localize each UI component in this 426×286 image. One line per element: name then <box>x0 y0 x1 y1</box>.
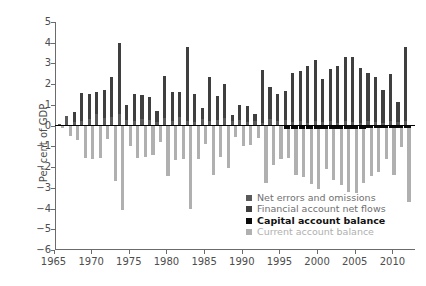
segment-current-account <box>182 126 185 159</box>
segment-current-account <box>294 126 297 176</box>
x-tick-mark <box>91 250 92 254</box>
bar-current-1980 <box>166 22 169 250</box>
y-tick-label: −4 <box>36 204 51 214</box>
y-tick-mark <box>51 63 55 64</box>
bar-current-1972 <box>106 22 109 250</box>
bar-current-1966 <box>61 22 64 250</box>
x-tick-label: 1985 <box>191 256 216 267</box>
x-tick-label: 1980 <box>154 256 179 267</box>
x-tick-label: 2000 <box>304 256 329 267</box>
bar-current-2011 <box>400 22 403 250</box>
segment-current-account <box>279 126 282 159</box>
y-tick-label: 0 <box>45 121 51 131</box>
segment-current-account <box>392 126 395 176</box>
bar-current-1982 <box>182 22 185 250</box>
y-tick-label: −5 <box>36 224 51 234</box>
segment-current-account <box>76 126 79 141</box>
chart-legend: Net errors and omissionsFinancial accoun… <box>246 192 386 238</box>
y-tick-label: −2 <box>36 162 51 172</box>
segment-current-account <box>84 126 87 158</box>
y-tick-label: 3 <box>45 58 51 68</box>
x-tick-mark <box>317 250 318 254</box>
segment-current-account <box>189 126 192 209</box>
segment-current-account <box>121 126 124 210</box>
legend-label: Financial account net flows <box>257 204 386 214</box>
segment-current-account <box>302 126 305 178</box>
segment-current-account <box>385 126 388 159</box>
segment-current-account <box>287 126 290 158</box>
legend-item: Net errors and omissions <box>246 192 386 204</box>
bar-current-1990 <box>242 22 245 250</box>
legend-swatch-icon <box>246 229 252 235</box>
y-tick-mark <box>51 22 55 23</box>
legend-label: Net errors and omissions <box>257 193 376 203</box>
bar-current-1988 <box>227 22 230 250</box>
legend-item: Current account balance <box>246 227 386 239</box>
bar-current-2010 <box>392 22 395 250</box>
segment-current-account <box>325 126 328 170</box>
segment-current-account <box>272 126 275 165</box>
segment-current-account <box>114 126 117 181</box>
y-tick-label: 4 <box>45 38 51 48</box>
segment-current-account <box>370 126 373 177</box>
x-tick-label: 1970 <box>78 256 103 267</box>
bar-current-1986 <box>212 22 215 250</box>
x-tick-mark <box>355 250 356 254</box>
x-tick-label: 2005 <box>342 256 367 267</box>
bar-current-1968 <box>76 22 79 250</box>
bar-current-2012 <box>407 22 410 250</box>
x-tick-mark <box>166 250 167 254</box>
x-tick-mark <box>54 250 55 254</box>
bar-current-1967 <box>69 22 72 250</box>
y-tick-mark <box>51 229 55 230</box>
legend-swatch-icon <box>246 206 252 212</box>
y-tick-label: 2 <box>45 79 51 89</box>
bar-current-1978 <box>151 22 154 250</box>
segment-current-account <box>355 126 358 193</box>
x-tick-mark <box>392 250 393 254</box>
segment-current-account <box>136 126 139 158</box>
bar-current-1984 <box>197 22 200 250</box>
x-tick-label: 2010 <box>380 256 405 267</box>
segment-current-account <box>212 126 215 176</box>
bar-current-1969 <box>84 22 87 250</box>
bar-current-1974 <box>121 22 124 250</box>
segment-current-account <box>377 126 380 173</box>
segment-current-account <box>400 126 403 148</box>
segment-current-account <box>174 126 177 160</box>
legend-swatch-icon <box>246 218 252 224</box>
bar-current-1971 <box>99 22 102 250</box>
segment-current-account <box>106 126 109 139</box>
bar-current-1987 <box>219 22 222 250</box>
bar-current-1975 <box>129 22 132 250</box>
segment-current-account <box>234 126 237 137</box>
y-tick-mark <box>51 105 55 106</box>
y-tick-mark <box>51 84 55 85</box>
segment-current-account <box>257 126 260 138</box>
bar-current-1981 <box>174 22 177 250</box>
x-tick-mark <box>129 250 130 254</box>
y-axis-spine <box>55 22 56 250</box>
segment-current-account <box>144 126 147 157</box>
segment-current-account <box>317 126 320 189</box>
segment-current-account <box>227 126 230 168</box>
y-tick-mark <box>51 167 55 168</box>
legend-item: Financial account net flows <box>246 204 386 216</box>
y-tick-label: −3 <box>36 183 51 193</box>
bar-current-1973 <box>114 22 117 250</box>
y-tick-label: 1 <box>45 100 51 110</box>
segment-current-account <box>242 126 245 147</box>
segment-current-account <box>159 126 162 143</box>
x-tick-mark <box>279 250 280 254</box>
segment-current-account <box>264 126 267 183</box>
bar-current-1976 <box>136 22 139 250</box>
segment-current-account <box>407 126 410 203</box>
segment-current-account <box>151 126 154 155</box>
y-tick-label: −1 <box>36 141 51 151</box>
segment-current-account <box>129 126 132 147</box>
bar-current-1970 <box>91 22 94 250</box>
legend-swatch-icon <box>246 195 252 201</box>
segment-current-account <box>362 126 365 183</box>
legend-label: Capital account balance <box>257 216 385 226</box>
bar-current-1977 <box>144 22 147 250</box>
